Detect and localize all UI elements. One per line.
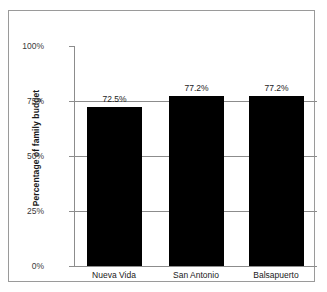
y-tick-label-0: 0% [4, 261, 44, 271]
y-tick-label-100: 100% [4, 41, 44, 51]
bar-nueva-vida[interactable] [87, 107, 142, 267]
y-tick-mark-50 [69, 156, 74, 157]
figure-border: Percentage of family budget 100% 75% 50%… [8, 10, 315, 282]
y-tick-mark-75 [69, 101, 74, 102]
axis-baseline [74, 266, 317, 267]
bar-san-antonio[interactable] [169, 96, 224, 266]
x-category-label-san-antonio: San Antonio [161, 270, 231, 280]
bar-value-label-nueva-vida: 72.5% [87, 94, 142, 104]
bar-value-label-balsapuerto: 77.2% [249, 83, 304, 93]
x-category-label-balsapuerto: Balsapuerto [241, 270, 311, 280]
y-tick-label-25: 25% [4, 206, 44, 216]
bar-value-label-san-antonio: 77.2% [169, 83, 224, 93]
y-tick-label-75: 75% [4, 96, 44, 106]
y-tick-label-50: 50% [4, 151, 44, 161]
y-tick-mark-25 [69, 211, 74, 212]
figure-canvas: Percentage of family budget 100% 75% 50%… [0, 0, 327, 292]
x-category-label-nueva-vida: Nueva Vida [79, 270, 149, 280]
y-tick-mark-0 [69, 266, 74, 267]
bar-balsapuerto[interactable] [249, 96, 304, 266]
y-tick-mark-100 [69, 46, 74, 47]
